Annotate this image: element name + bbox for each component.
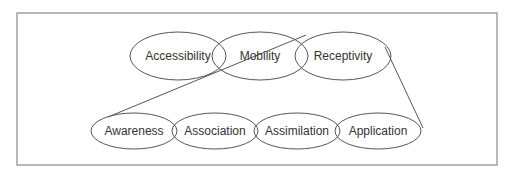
label-application: Application	[349, 124, 408, 138]
node-receptivity: Receptivity	[295, 32, 391, 80]
label-receptivity: Receptivity	[314, 49, 373, 63]
bottom-row-ellipses: Awareness Association Assimilation Appli…	[91, 113, 421, 149]
label-awareness: Awareness	[104, 124, 163, 138]
diagram-canvas: Accessibility Mobility Receptivity Aware…	[0, 0, 511, 177]
label-mobility: Mobility	[240, 49, 281, 63]
node-application: Application	[335, 113, 421, 149]
node-awareness: Awareness	[91, 113, 177, 149]
label-accessibility: Accessibility	[145, 49, 210, 63]
connector-line-awareness-receptivity	[108, 35, 306, 117]
label-association: Association	[184, 124, 245, 138]
label-assimilation: Assimilation	[265, 124, 329, 138]
node-assimilation: Assimilation	[254, 113, 340, 149]
node-association: Association	[172, 113, 258, 149]
top-row-ellipses: Accessibility Mobility Receptivity	[130, 32, 391, 80]
diagram-frame	[17, 13, 497, 165]
